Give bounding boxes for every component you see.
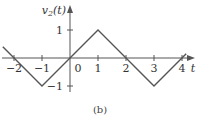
y-axis-label: v2(t) xyxy=(42,4,66,18)
x-tick-label: 3 xyxy=(151,62,158,75)
y-axis-arrow-icon xyxy=(67,5,73,13)
caption: (b) xyxy=(93,104,107,115)
x-tick-label: 0 xyxy=(75,62,82,75)
x-tick-label: 1 xyxy=(95,62,102,75)
x-axis-arrow-icon xyxy=(187,55,195,61)
x-tick-label: 2 xyxy=(123,62,130,75)
y-tick-label: 1 xyxy=(56,24,63,37)
x-tick-label: 4 xyxy=(179,62,186,75)
y-tick-label: −1 xyxy=(47,80,63,93)
axes xyxy=(2,5,195,92)
tick-labels: −2−1012341−1v2(t)t(b) xyxy=(6,4,196,115)
x-axis-label: t xyxy=(191,62,196,75)
x-tick-label: −1 xyxy=(34,62,50,75)
chart: −2−1012341−1v2(t)t(b) xyxy=(0,0,200,119)
x-tick-label: −2 xyxy=(6,62,22,75)
